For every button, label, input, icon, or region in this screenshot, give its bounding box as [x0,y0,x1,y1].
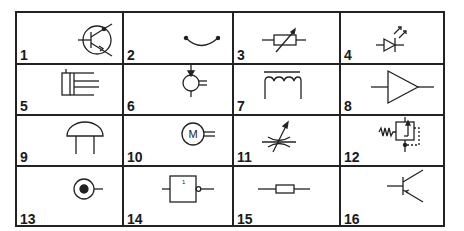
symbol-cell-16: 16 [341,167,443,227]
motor-label: M [189,128,198,140]
hydraulic-cylinder-icon [62,67,112,107]
dome-two-legs-icon [67,120,112,160]
cell-number: 4 [344,48,352,62]
symbol-cell-10: M 10 [124,116,232,165]
cell-number: 3 [237,48,245,62]
gate-label: 1 [182,179,186,185]
variable-capacitor-icon [262,120,307,160]
electric-motor-icon: M [181,122,231,152]
cell-number: 9 [20,150,28,164]
pressure-relief-valve-icon [379,116,429,164]
cell-number: 7 [237,99,245,113]
symbol-cell-11: 11 [234,116,339,165]
cell-number: 8 [344,99,352,113]
cell-number: 14 [127,212,143,226]
symbol-cell-14: 1 14 [124,167,232,227]
symbol-cell-9: 9 [17,116,122,165]
cell-number: 1 [20,48,28,62]
cell-number: 11 [237,150,252,164]
symbol-cell-8: 8 [341,65,443,114]
resistor-fuse-icon [258,177,318,202]
light-emitting-diode-icon [376,23,416,58]
symbol-cell-2: 2 [124,13,232,63]
cell-number: 6 [127,99,135,113]
cell-number: 13 [20,212,36,226]
inductor-with-core-icon [264,69,309,109]
not-gate-icon: 1 [162,173,222,213]
cell-number: 2 [127,48,135,62]
cell-number: 12 [344,150,360,164]
npn-transistor-icon [387,169,432,209]
symbol-cell-5: 5 [17,65,122,114]
cell-number: 5 [20,99,28,113]
cell-number: 16 [344,212,360,226]
symbol-cell-12: 12 [341,116,443,165]
arc-with-end-points-icon [184,33,224,53]
symbol-cell-1: 1 [17,13,122,63]
variable-resistor-icon [262,28,312,58]
symbol-cell-4: 4 [341,13,443,63]
symbol-cell-6: 6 [124,65,232,114]
symbol-cell-3: 3 [234,13,339,63]
pump-motor-icon [179,65,219,110]
cell-number: 15 [237,212,253,226]
symbol-cell-13: 13 [17,167,122,227]
bullseye-terminal-icon [73,177,118,207]
symbol-cell-15: 15 [234,167,339,227]
cell-number: 10 [127,150,143,164]
symbol-cell-7: 7 [234,65,339,114]
pnp-transistor-in-circle-icon [75,19,125,59]
amplifier-triangle-icon [371,69,441,114]
symbol-grid: 1 2 3 4 [15,11,445,227]
